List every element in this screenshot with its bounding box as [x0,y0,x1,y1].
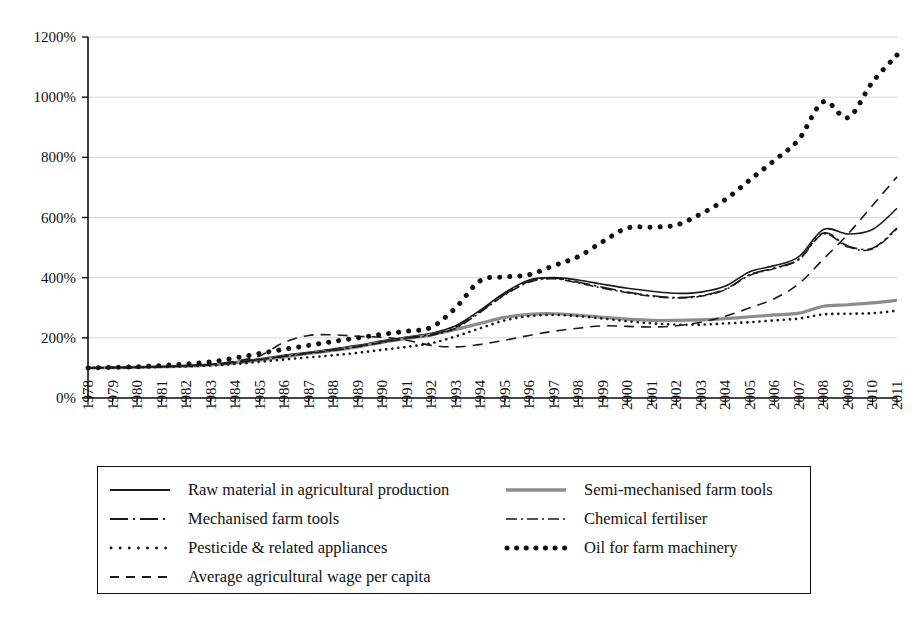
x-axis-tick-label: 2004 [717,380,733,411]
y-axis: 0%200%400%600%800%1000%1200% [34,29,89,406]
x-axis-tick-label: 2007 [791,380,807,411]
y-axis-tick-label: 1000% [34,89,77,105]
gridlines [88,37,897,398]
x-axis-tick-label: 1985 [252,380,268,410]
x-axis-tick-label: 1995 [497,380,513,410]
legend-item-wage[interactable]: Average agricultural wage per capita [108,562,504,591]
x-axis-tick-label: 2006 [766,380,782,411]
series-line [88,177,897,368]
legend-label: Raw material in agricultural production [188,480,449,500]
dotted-line-icon [108,541,180,555]
x-axis-tick-label: 2005 [742,380,758,410]
x-axis-tick-label: 1987 [301,380,317,411]
x-axis-tick-label: 1997 [546,380,562,411]
legend-item-chemical-fertiliser[interactable]: Chemical fertiliser [504,504,804,533]
x-axis-tick-label: 1980 [129,380,145,410]
chart-figure: 0%200%400%600%800%1000%1200% 19781979198… [0,0,919,626]
legend-item-semi-mechanised[interactable]: Semi-mechanised farm tools [504,475,804,504]
x-axis-tick-label: 1983 [203,380,219,410]
y-axis-tick-label: 400% [41,270,76,286]
legend-item-pesticide[interactable]: Pesticide & related appliances [108,533,504,562]
dashed-line-icon [108,570,180,584]
x-axis-tick-label: 1990 [374,380,390,410]
y-axis-tick-label: 1200% [34,29,77,45]
x-axis-tick-label: 1998 [570,380,586,410]
chart-legend: Raw material in agricultural production … [97,466,811,594]
legend-label: Oil for farm machinery [584,538,737,558]
x-axis-tick-label: 1999 [595,380,611,410]
x-axis-tick-label: 1986 [276,380,292,411]
legend-label: Average agricultural wage per capita [188,567,430,587]
y-axis-tick-label: 800% [41,149,76,165]
legend-label: Pesticide & related appliances [188,538,387,558]
x-axis-tick-label: 1982 [178,380,194,410]
x-axis-tick-label: 2003 [693,380,709,410]
x-axis-tick-label: 1991 [399,380,415,410]
legend-item-oil[interactable]: Oil for farm machinery [504,533,804,562]
x-axis-tick-label: 1978 [80,380,96,410]
x-axis-tick-label: 1989 [350,380,366,410]
series-line [88,208,897,367]
dash-dot-short-line-icon [504,512,576,526]
thick-gray-line-icon [504,483,576,497]
x-axis-tick-label: 1996 [521,380,537,411]
legend-label: Chemical fertiliser [584,509,707,529]
y-axis-tick-label: 200% [41,330,76,346]
x-axis-tick-label: 1988 [325,380,341,410]
x-axis-tick-label: 2002 [668,380,684,410]
x-axis-tick-label: 1994 [472,380,488,411]
x-axis-tick-label: 1981 [154,380,170,410]
x-axis-tick-label: 2009 [840,380,856,410]
series-line [88,300,897,368]
x-axis-tick-label: 2001 [644,380,660,410]
legend-item-mechanised[interactable]: Mechanised farm tools [108,504,504,533]
x-axis-tick-label: 2000 [619,380,635,410]
legend-label: Semi-mechanised farm tools [584,480,773,500]
x-axis-tick-label: 2010 [864,380,880,410]
legend-item-raw-material[interactable]: Raw material in agricultural production [108,475,504,504]
x-axis: 1978197919801981198219831984198519861987… [80,380,905,411]
thick-dotted-line-icon [504,541,576,555]
solid-line-icon [108,483,180,497]
x-axis-tick-label: 2011 [889,381,905,410]
x-axis-tick-label: 1992 [423,380,439,410]
x-axis-tick-label: 2008 [815,380,831,410]
x-axis-tick-label: 1993 [448,380,464,410]
data-series-group [88,55,897,368]
y-axis-tick-label: 0% [56,390,76,406]
dash-dot-line-icon [108,512,180,526]
legend-grid: Raw material in agricultural production … [108,475,802,591]
y-axis-tick-label: 600% [41,210,76,226]
legend-label: Mechanised farm tools [188,509,339,529]
x-axis-tick-label: 1979 [105,380,121,410]
x-axis-tick-label: 1984 [227,380,243,411]
